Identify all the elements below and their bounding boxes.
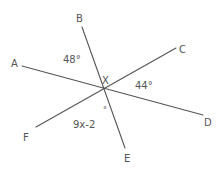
point-label-d: D — [204, 117, 212, 128]
angle-label-fxe: 9x-2 — [73, 119, 95, 130]
point-label-c: C — [179, 44, 186, 55]
point-label-a: A — [11, 58, 18, 69]
angle-diagram: B A C D F E X 48° 44° 9x-2 ° — [0, 0, 220, 176]
line-cf — [36, 48, 176, 127]
line-ad — [22, 66, 203, 115]
angle-degree-fxe: ° — [103, 106, 107, 115]
point-label-b: B — [76, 13, 83, 24]
angle-label-cxd: 44° — [135, 80, 153, 91]
point-label-x: X — [102, 75, 109, 86]
point-label-f: F — [23, 132, 29, 143]
angle-label-axb: 48° — [63, 54, 81, 65]
point-label-e: E — [124, 153, 130, 164]
